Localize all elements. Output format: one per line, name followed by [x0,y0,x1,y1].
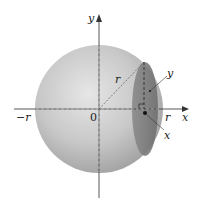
sphere-diagram: y x −r 0 r r y x [0,0,204,211]
y-axis-arrow-icon [96,14,102,22]
radius-label: r [115,73,121,86]
x-axis-label: x [182,111,189,124]
y-axis-label: y [87,12,95,25]
pointer-y-dot [149,90,151,92]
section-x-label: x [164,129,171,142]
neg-r-label: −r [16,111,31,124]
section-center-dot [143,111,147,115]
section-y-label: y [166,67,174,80]
origin-label: 0 [90,111,97,124]
pos-r-label: r [165,111,171,124]
